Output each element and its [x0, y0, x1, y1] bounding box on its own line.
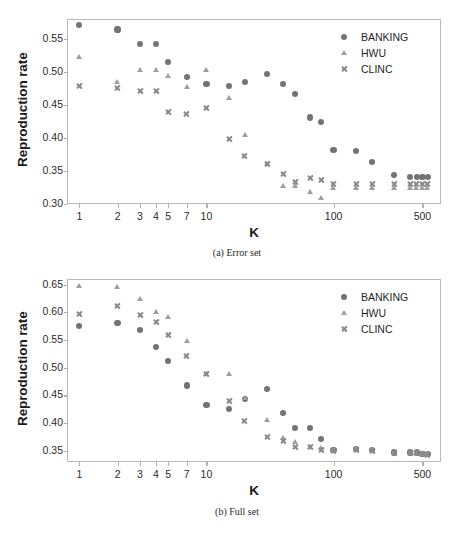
x-tick-label: 10: [186, 210, 226, 222]
triangle-marker: [333, 46, 355, 60]
x-tick-mark: [79, 204, 80, 208]
x-tick-label: 100: [314, 210, 354, 222]
y-tick-mark: [64, 171, 68, 172]
subfigure-caption-a: (a) Error set: [0, 247, 474, 258]
y-tick-label: 0.45: [29, 98, 63, 110]
y-tick-label: 0.55: [29, 333, 63, 345]
subfigure-error-set: Reproduction rate K BANKINGHWUCLINC 0.30…: [0, 0, 474, 264]
x-tick-mark: [422, 204, 423, 208]
legend-a: BANKINGHWUCLINC: [333, 29, 408, 77]
legend-label: CLINC: [355, 63, 393, 75]
x-tick-label: 500: [402, 468, 442, 480]
x-tick-label: 100: [314, 468, 354, 480]
circle-marker: [333, 30, 355, 44]
legend-b: BANKINGHWUCLINC: [333, 289, 408, 337]
y-tick-mark: [64, 312, 68, 313]
x-axis-label-b: K: [67, 483, 441, 498]
x-tick-mark: [156, 204, 157, 208]
y-tick-mark: [64, 285, 68, 286]
y-tick-label: 0.40: [29, 416, 63, 428]
x-marker: [333, 62, 355, 76]
x-tick-mark: [206, 204, 207, 208]
y-tick-mark: [64, 395, 68, 396]
y-tick-label: 0.30: [29, 197, 63, 209]
legend-label: BANKING: [355, 291, 408, 303]
legend-item-clinc[interactable]: CLINC: [333, 61, 408, 77]
circle-marker: [333, 290, 355, 304]
y-tick-mark: [64, 423, 68, 424]
y-tick-label: 0.55: [29, 32, 63, 44]
y-tick-mark: [64, 204, 68, 205]
legend-label: BANKING: [355, 31, 408, 43]
subfigure-caption-b: (b) Full set: [0, 506, 474, 517]
x-tick-mark: [334, 204, 335, 208]
legend-label: CLINC: [355, 323, 393, 335]
x-tick-mark: [118, 204, 119, 208]
subfigure-full-set: Reproduction rate K BANKINGHWUCLINC 0.35…: [0, 258, 474, 520]
x-tick-label: 500: [402, 210, 442, 222]
y-tick-label: 0.50: [29, 361, 63, 373]
x-tick-mark: [140, 462, 141, 466]
y-tick-label: 0.50: [29, 65, 63, 77]
y-axis-label-a: Reproduction rate: [15, 52, 30, 167]
y-tick-mark: [64, 451, 68, 452]
x-tick-mark: [168, 204, 169, 208]
legend-item-hwu[interactable]: HWU: [333, 45, 408, 61]
y-tick-label: 0.45: [29, 388, 63, 400]
x-tick-mark: [206, 462, 207, 466]
x-tick-mark: [79, 462, 80, 466]
x-tick-label: 10: [186, 468, 226, 480]
x-tick-label: 1: [59, 210, 99, 222]
legend-item-banking[interactable]: BANKING: [333, 289, 408, 305]
y-tick-mark: [64, 105, 68, 106]
x-tick-label: 1: [59, 468, 99, 480]
triangle-marker: [333, 306, 355, 320]
y-axis-label-b: Reproduction rate: [15, 311, 30, 426]
legend-label: HWU: [355, 307, 386, 319]
legend-label: HWU: [355, 47, 386, 59]
y-tick-label: 0.35: [29, 164, 63, 176]
x-tick-mark: [156, 462, 157, 466]
figure-container: Reproduction rate K BANKINGHWUCLINC 0.30…: [0, 0, 474, 544]
y-tick-label: 0.60: [29, 305, 63, 317]
y-tick-mark: [64, 368, 68, 369]
y-tick-mark: [64, 340, 68, 341]
legend-item-banking[interactable]: BANKING: [333, 29, 408, 45]
y-tick-mark: [64, 138, 68, 139]
x-tick-mark: [422, 462, 423, 466]
legend-item-hwu[interactable]: HWU: [333, 305, 408, 321]
x-marker: [333, 322, 355, 336]
x-tick-mark: [168, 462, 169, 466]
y-tick-label: 0.65: [29, 278, 63, 290]
y-tick-label: 0.40: [29, 131, 63, 143]
x-tick-mark: [187, 204, 188, 208]
x-tick-mark: [118, 462, 119, 466]
x-axis-label-a: K: [67, 225, 441, 240]
legend-item-clinc[interactable]: CLINC: [333, 321, 408, 337]
y-tick-mark: [64, 39, 68, 40]
x-tick-mark: [140, 204, 141, 208]
y-tick-label: 0.35: [29, 444, 63, 456]
x-tick-mark: [187, 462, 188, 466]
y-tick-mark: [64, 72, 68, 73]
x-tick-mark: [334, 462, 335, 466]
